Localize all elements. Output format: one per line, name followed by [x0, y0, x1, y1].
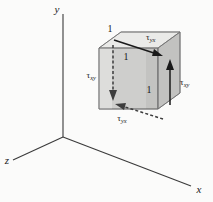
z-axis-line: [13, 137, 63, 160]
tau-subscript: yx: [120, 117, 127, 124]
tau-subscript: xy: [183, 81, 190, 88]
tau-yx-bottom-label: τyx: [117, 113, 127, 124]
z-axis-label: z: [4, 154, 10, 166]
dim-label-top-left: 1: [108, 23, 113, 34]
dim-label-top-inner: 1: [124, 51, 129, 62]
figure-container: y x z τyx: [0, 0, 213, 202]
tau-subscript: xy: [89, 74, 96, 81]
stress-element-diagram: y x z τyx: [0, 0, 213, 202]
x-axis-label: x: [196, 183, 202, 195]
cube-body: [99, 32, 180, 109]
tau-subscript: yx: [149, 36, 156, 43]
cube-shade-left-strip: [99, 48, 112, 109]
y-axis-label: y: [54, 3, 60, 15]
x-axis-line: [63, 137, 191, 186]
tau-xy-left-label: τxy: [87, 70, 97, 81]
dim-label-front-right: 1: [147, 84, 152, 95]
cube-shade-right-strip: [146, 48, 158, 109]
tau-xy-right-label: τxy: [180, 77, 190, 88]
